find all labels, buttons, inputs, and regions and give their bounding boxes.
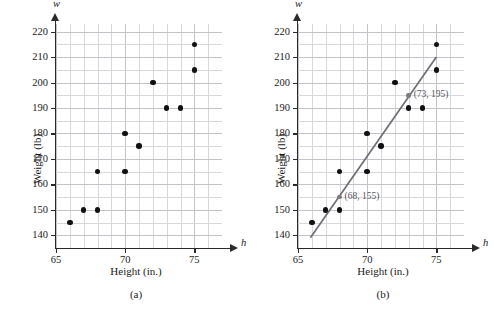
- point-annotation-label: (68, 155): [345, 192, 380, 202]
- gridline-horizontal: [56, 159, 222, 160]
- data-point: [81, 207, 86, 212]
- y-axis-tick: [51, 57, 56, 58]
- data-point: [95, 207, 100, 212]
- annotated-point-marker: [406, 93, 411, 98]
- y-axis-tick: [51, 133, 56, 134]
- y-axis-tick-label: 200: [32, 77, 48, 88]
- gridline-horizontal: [56, 133, 222, 134]
- gridline-horizontal: [56, 95, 222, 96]
- data-point: [136, 143, 141, 148]
- data-point: [337, 207, 342, 212]
- gridline-horizontal: [56, 121, 222, 122]
- panel-caption-a: (a): [20, 288, 252, 300]
- x-axis-b: [297, 248, 473, 249]
- data-point: [164, 105, 169, 110]
- y-axis-tick-label: 210: [274, 52, 290, 63]
- y-axis-tick-label: 150: [274, 205, 290, 216]
- gridline-horizontal: [56, 172, 222, 173]
- data-point: [192, 42, 197, 47]
- y-axis-title-a: Weight (lb): [31, 133, 43, 183]
- y-axis-tick-label: 220: [32, 26, 48, 37]
- panel-caption-b: (b): [262, 288, 504, 300]
- y-axis-tick-label: 140: [274, 230, 290, 241]
- x-axis-tick: [194, 248, 195, 253]
- gridline-horizontal: [56, 184, 222, 185]
- gridline-horizontal: [56, 44, 222, 45]
- data-point: [364, 131, 369, 136]
- y-axis-arrow-icon: [51, 13, 59, 21]
- y-axis-tick: [51, 210, 56, 211]
- y-axis-variable-a: w: [53, 0, 60, 9]
- y-axis-tick: [51, 184, 56, 185]
- y-axis-tick: [51, 159, 56, 160]
- plot-area-b: w h 140150160170180190200210220657075 (6…: [298, 24, 464, 248]
- x-axis-arrow-icon: [230, 244, 238, 252]
- panel-b: w h 140150160170180190200210220657075 (6…: [252, 0, 504, 317]
- y-axis-tick-label: 140: [32, 230, 48, 241]
- data-point: [192, 67, 197, 72]
- point-annotation-label: (73, 195): [414, 90, 449, 100]
- data-point: [323, 207, 328, 212]
- data-point: [434, 67, 439, 72]
- x-axis-tick-label: 75: [431, 255, 442, 266]
- x-axis-tick: [367, 248, 368, 253]
- y-axis-tick-label: 220: [274, 26, 290, 37]
- data-point: [406, 105, 411, 110]
- y-axis-tick-label: 200: [274, 77, 290, 88]
- y-axis-variable-b: w: [295, 0, 302, 9]
- gridline-horizontal: [56, 70, 222, 71]
- data-point: [178, 105, 183, 110]
- panel-a: w h 140150160170180190200210220657075 We…: [0, 0, 252, 317]
- annotated-point-marker: [337, 195, 342, 200]
- x-axis-variable-a: h: [241, 237, 246, 248]
- plot-area-a: w h 140150160170180190200210220657075: [56, 24, 222, 248]
- x-axis-tick-label: 70: [362, 255, 373, 266]
- y-axis-arrow-icon: [293, 13, 301, 21]
- x-axis-a: [55, 248, 231, 249]
- y-axis-tick: [51, 108, 56, 109]
- x-axis-title-a: Height (in.): [20, 265, 252, 277]
- x-axis-tick-label: 65: [293, 255, 304, 266]
- y-axis-tick: [51, 32, 56, 33]
- data-point: [150, 80, 155, 85]
- gridline-horizontal: [56, 108, 222, 109]
- data-point: [378, 143, 383, 148]
- data-point: [67, 220, 72, 225]
- y-axis-tick-label: 150: [32, 205, 48, 216]
- x-axis-tick-label: 65: [51, 255, 62, 266]
- grid-a: [56, 24, 222, 248]
- gridline-horizontal: [56, 197, 222, 198]
- gridline-horizontal: [56, 223, 222, 224]
- y-axis-tick: [51, 83, 56, 84]
- gridline-horizontal: [56, 83, 222, 84]
- y-axis-title-b: Weight (lb): [275, 133, 287, 183]
- x-axis-arrow-icon: [472, 244, 480, 252]
- gridline-horizontal: [56, 235, 222, 236]
- data-point: [434, 42, 439, 47]
- data-point: [392, 80, 397, 85]
- data-point: [122, 131, 127, 136]
- x-axis-title-b: Height (in.): [262, 265, 504, 277]
- y-axis-tick-label: 190: [274, 103, 290, 114]
- gridline-horizontal: [56, 57, 222, 58]
- x-axis-tick: [298, 248, 299, 253]
- figure-container: w h 140150160170180190200210220657075 We…: [0, 0, 504, 317]
- x-axis-tick: [125, 248, 126, 253]
- x-axis-tick: [436, 248, 437, 253]
- y-axis-tick-label: 210: [32, 52, 48, 63]
- data-point: [420, 105, 425, 110]
- x-axis-tick: [56, 248, 57, 253]
- x-axis-tick-label: 70: [120, 255, 131, 266]
- y-axis-tick: [51, 235, 56, 236]
- x-axis-variable-b: h: [483, 237, 488, 248]
- gridline-horizontal: [56, 32, 222, 33]
- trend-line: [298, 24, 464, 248]
- y-axis-tick-label: 190: [32, 103, 48, 114]
- data-point: [309, 220, 314, 225]
- x-axis-tick-label: 75: [189, 255, 200, 266]
